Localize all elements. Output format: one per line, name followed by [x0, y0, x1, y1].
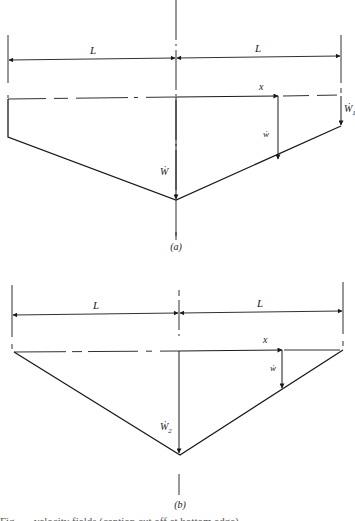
- panel-a-x-label: x: [258, 81, 264, 92]
- panel-b-x-label: x: [262, 334, 268, 345]
- figure-caption-partial: Fig. — velocity fields (caption cut off …: [0, 514, 355, 521]
- panel-a-baseline-right: [283, 95, 341, 96]
- panel-b-dimension-left: [13, 313, 178, 315]
- panel-a-dimension-right: [177, 56, 340, 58]
- panel-a-baseline-left: [8, 97, 176, 99]
- panel-a-tip-velocity-label: Ẇ1: [344, 103, 355, 117]
- panel-b: L L x ẇ Ẇ2 (b): [12, 282, 343, 511]
- panel-b-dimension-right-label: L: [256, 297, 263, 309]
- panel-b-dimension-left-label: L: [92, 299, 99, 311]
- panel-a-label: (a): [170, 241, 182, 253]
- velocity-field-figure: L L x Ẇ ẇ Ẇ1 (a) L L x: [0, 0, 355, 521]
- panel-a-dimension-left: [9, 58, 175, 60]
- panel-a-center-velocity-label: Ẇ: [160, 166, 170, 177]
- panel-a-dimension-left-label: L: [89, 44, 96, 56]
- panel-b-x-axis-arrow: [179, 350, 282, 351]
- panel-a-velocity-profile: [8, 99, 341, 200]
- panel-b-dimension-right: [180, 311, 342, 313]
- panel-a-dimension-right-label: L: [254, 42, 261, 54]
- panel-b-label: (b): [174, 499, 186, 511]
- panel-a: L L x Ẇ ẇ Ẇ1 (a): [8, 0, 355, 253]
- panel-a-local-velocity-label: ẇ: [263, 129, 269, 139]
- panel-b-center-velocity-label: Ẇ2: [160, 421, 172, 435]
- panel-b-baseline-left: [14, 351, 179, 352]
- panel-a-x-axis-arrow: [176, 96, 278, 97]
- panel-b-local-velocity-label: ẇ: [270, 363, 276, 373]
